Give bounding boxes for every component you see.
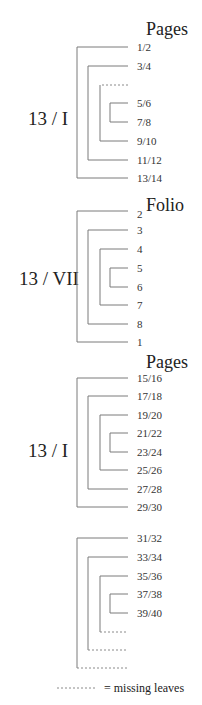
bifolium-bracket [110,103,128,122]
leaf-label: 27/28 [137,483,163,495]
bifolium-bracket [110,268,128,287]
leaf-label: 13/14 [137,172,163,184]
quire-label-2: 13 / VII [19,268,79,289]
leaf-label: 21/22 [137,427,162,439]
legend: = missing leaves [57,681,184,695]
leaf-label: 19/20 [137,409,163,421]
leaf-label: 9/10 [137,135,157,147]
leaf-label: 17/18 [137,390,163,402]
leaf-label: 23/24 [137,446,163,458]
section-2: Folio 13 / VII 2 3 4 5 6 7 8 1 [19,195,184,348]
section-4: 31/32 33/34 35/36 37/38 39/40 [77,532,163,668]
bifolium-bracket [100,85,128,141]
leaf-label: 3/4 [137,60,152,72]
bifolium-bracket [110,433,128,452]
leaf-label: 39/40 [137,607,163,619]
bifolium-bracket [88,230,128,324]
bifolium-bracket [100,415,128,470]
bifolium-bracket [88,396,128,489]
header-folio: Folio [146,195,184,215]
leaf-label: 1 [137,336,143,348]
leaf-label: 37/38 [137,588,163,600]
quire-label-1: 13 / I [28,108,68,129]
leaf-label: 2 [137,208,143,220]
bifolium-bracket [100,576,128,632]
bifolium-bracket [77,211,128,342]
leaf-label: 5 [137,262,143,274]
bifolium-bracket [88,557,128,650]
leaf-label: 33/34 [137,551,163,563]
leaf-label: 11/12 [137,154,162,166]
leaf-label: 25/26 [137,464,163,476]
leaf-label: 3 [137,224,143,236]
bifolium-bracket [77,47,128,178]
leaf-label: 7/8 [137,116,152,128]
leaf-label: 35/36 [137,570,163,582]
bifolium-bracket [110,594,128,613]
leaf-label: 6 [137,281,143,293]
leaf-label: 31/32 [137,532,162,544]
legend-text: = missing leaves [104,681,184,695]
section-1: Pages 13 / I 1/2 3/4 5/6 7/8 9/10 11/12 … [28,19,188,184]
leaf-label: 15/16 [137,372,163,384]
header-pages-1: Pages [146,19,188,39]
leaf-label: 8 [137,318,143,330]
leaf-label: 4 [137,243,143,255]
leaf-label: 29/30 [137,501,163,513]
leaf-label: 7 [137,299,143,311]
quire-label-3: 13 / I [28,440,68,461]
bifolium-bracket [100,249,128,305]
leaf-label: 1/2 [137,41,151,53]
header-pages-2: Pages [146,352,188,372]
leaf-label: 5/6 [137,97,152,109]
section-3: Pages 13 / I 15/16 17/18 19/20 21/22 23/… [28,352,188,513]
bifolium-bracket [88,66,128,160]
bifolium-bracket [77,378,128,507]
